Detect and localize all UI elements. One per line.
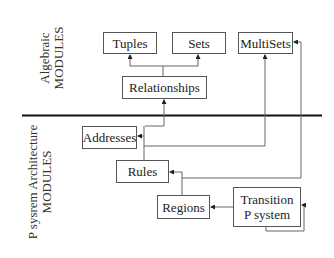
node-tuples: Tuples	[103, 32, 157, 54]
node-regions: Regions	[157, 195, 210, 219]
node-addresses-label: Addresses	[83, 130, 136, 145]
node-addresses: Addresses	[82, 126, 137, 149]
node-rules-label: Rules	[128, 164, 158, 179]
node-transition-label-line2: P system	[244, 207, 290, 222]
node-transition-psystem: Transition P system	[233, 187, 301, 227]
algebraic-label-line2: MODULES	[52, 14, 66, 102]
algebraic-label-line1: Algebraic	[38, 14, 52, 102]
node-multisets: MultiSets	[238, 32, 293, 54]
node-tuples-label: Tuples	[113, 36, 148, 51]
node-sets: Sets	[172, 32, 226, 54]
node-relationships-label: Relationships	[129, 80, 200, 95]
node-multisets-label: MultiSets	[240, 36, 291, 51]
node-regions-label: Regions	[162, 200, 205, 215]
psystem-modules-label: P sysrem Architecture MODULES	[26, 112, 54, 252]
psystem-label-line1: P sysrem Architecture	[26, 112, 40, 252]
node-sets-label: Sets	[188, 36, 210, 51]
psystem-label-line2: MODULES	[40, 112, 54, 252]
node-transition-label-line1: Transition	[241, 192, 294, 207]
node-relationships: Relationships	[122, 76, 207, 99]
algebraic-modules-label: Algebraic MODULES	[38, 14, 66, 102]
node-rules: Rules	[116, 160, 169, 183]
